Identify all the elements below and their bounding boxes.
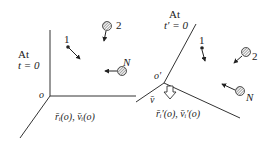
right-particle-1 — [200, 46, 205, 61]
left-particle-N-label: N — [123, 57, 130, 68]
right-particle-N — [222, 84, 245, 96]
diagram-canvas — [0, 0, 272, 145]
left-particle-1-label: 1 — [64, 34, 70, 45]
right-origin-label: o′ — [154, 70, 161, 81]
left-origin-label: o — [39, 89, 44, 100]
right-particle-N-label: N — [246, 92, 253, 103]
right-title-line2: t′ = 0 — [164, 20, 188, 31]
right-particle-1-label: 1 — [199, 35, 205, 46]
right-velocity-label: v̄ — [150, 94, 154, 105]
left-particle-2-label: 2 — [116, 20, 122, 31]
right-particle-2-label: 2 — [252, 51, 258, 62]
left-title-line2: t = 0 — [18, 60, 39, 71]
left-particle-1 — [66, 45, 80, 59]
left-state-label: r̄ᵢ(o), v̄ᵢ(o) — [55, 111, 95, 122]
left-particle-2 — [103, 22, 112, 42]
right-state-label: r̄ᵢ′(o), v̄ᵢ′(o) — [156, 108, 200, 119]
right-particle-2 — [234, 48, 251, 64]
